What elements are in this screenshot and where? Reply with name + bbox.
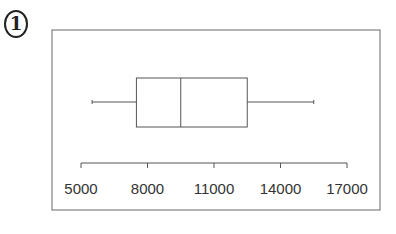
tick-label: 14000 — [260, 180, 302, 197]
boxplot — [92, 78, 314, 127]
tick-label: 5000 — [64, 180, 97, 197]
box-iqr — [136, 78, 247, 127]
boxplot-chart: 50008000110001400017000 — [0, 0, 396, 234]
tick-label: 8000 — [131, 180, 164, 197]
tick-label: 17000 — [326, 180, 368, 197]
x-axis: 50008000110001400017000 — [64, 163, 368, 197]
tick-label: 11000 — [194, 180, 235, 197]
